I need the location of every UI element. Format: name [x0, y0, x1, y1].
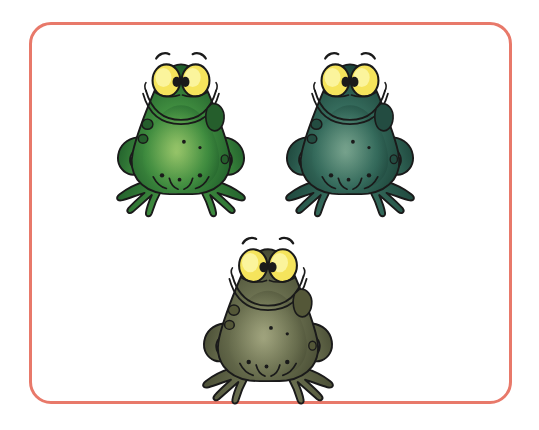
frog-illustration-green [108, 48, 254, 218]
frog-illustration-olive [192, 233, 344, 405]
frog-illustration-teal [277, 48, 423, 218]
illustration-canvas [0, 0, 539, 430]
